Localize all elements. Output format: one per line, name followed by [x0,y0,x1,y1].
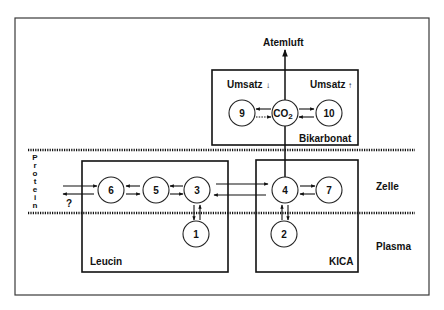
node-9: 9 [229,100,255,126]
turnover-up-label: Umsatz [310,79,346,90]
svg-text:1: 1 [193,229,199,240]
node-co2: CO2 [272,100,298,126]
svg-text:7: 7 [326,185,332,196]
svg-text:5: 5 [153,185,159,196]
node-4: 4 [272,177,298,203]
turnover-down-arrow-icon: ↓ [266,81,270,90]
bicarbonate-label: Bikarbonat [299,133,352,144]
unknown-flux-question-mark: ? [66,198,72,209]
leucine-label: Leucin [90,256,122,267]
svg-text:2: 2 [281,229,287,240]
svg-text:10: 10 [323,108,335,119]
svg-text:9: 9 [239,108,245,119]
exhaled-air-label: Atemluft [263,37,304,48]
node-2: 2 [271,221,297,247]
turnover-up-arrow-icon: ↑ [348,81,352,90]
turnover-down-label: Umsatz [227,79,263,90]
node-3: 3 [184,177,210,203]
node-6: 6 [98,177,124,203]
protein-vertical-label: P r o t e i n [32,153,38,210]
node-10: 10 [316,100,342,126]
node-5: 5 [143,177,169,203]
svg-text:n: n [33,201,38,210]
leucine-kica-compartment-diagram: Atemluft Umsatz ↓ Umsatz ↑ Bikarbonat P … [0,0,444,310]
outer-frame [15,18,429,295]
svg-text:6: 6 [108,185,114,196]
cell-region-label: Zelle [376,181,399,192]
node-7: 7 [316,177,342,203]
plasma-region-label: Plasma [376,241,411,252]
svg-text:4: 4 [282,185,288,196]
kica-label: KICA [329,256,353,267]
svg-text:3: 3 [194,185,200,196]
node-1: 1 [183,221,209,247]
